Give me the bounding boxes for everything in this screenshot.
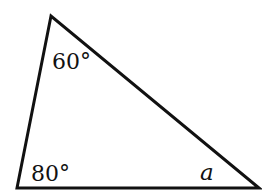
triangle-diagram: 60° 80° a [0, 0, 262, 194]
top-angle-label: 60° [52, 49, 91, 74]
bottom-left-angle-label: 80° [31, 161, 70, 186]
bottom-right-angle-label: a [200, 159, 214, 185]
